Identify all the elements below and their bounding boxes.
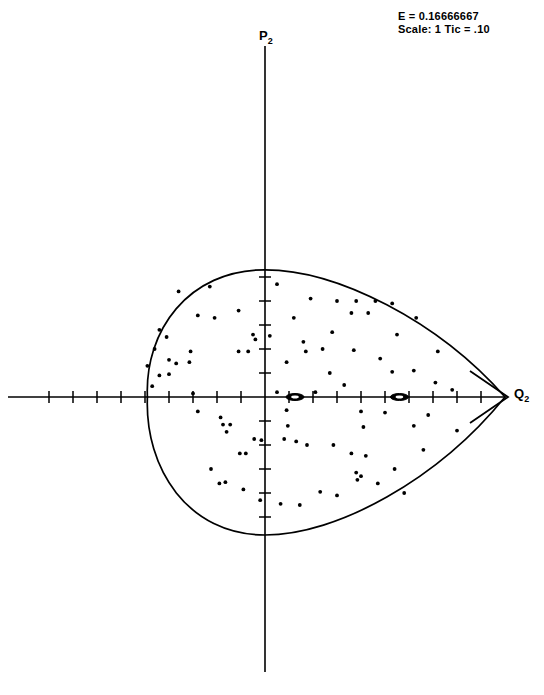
scatter-point <box>414 316 418 320</box>
scatter-point <box>302 340 306 344</box>
scatter-point <box>275 282 279 286</box>
scatter-point <box>366 311 370 315</box>
scatter-point <box>237 350 241 354</box>
scatter-point <box>376 482 380 486</box>
scatter-point <box>244 452 248 456</box>
scatter-point <box>305 443 309 447</box>
scatter-point <box>314 390 318 394</box>
scatter-point <box>328 371 332 375</box>
scatter-point <box>330 330 334 334</box>
scatter-point <box>294 440 298 444</box>
scatter-point <box>332 443 336 447</box>
scatter-point <box>165 335 169 339</box>
annotation-box: E = 0.16666667 Scale: 1 Tic = .10 <box>398 10 538 36</box>
scatter-point <box>285 360 289 364</box>
scatter-point <box>286 424 290 428</box>
scatter-point <box>158 328 162 332</box>
scatter-point <box>378 357 382 361</box>
scatter-point <box>412 424 416 428</box>
scatter-point <box>285 408 289 412</box>
scatter-point <box>158 374 162 378</box>
scatter-point <box>318 490 322 494</box>
axes-group <box>8 46 508 672</box>
scatter-point <box>304 350 308 354</box>
scatter-point <box>153 347 157 351</box>
scatter-point <box>436 350 440 354</box>
scatter-point <box>426 413 430 417</box>
scatter-point <box>364 454 368 458</box>
island-center-1-center-highlight <box>291 396 299 399</box>
scatter-point <box>209 467 213 471</box>
scatter-point <box>342 383 346 387</box>
scatter-point <box>225 430 229 434</box>
scatter-point <box>174 362 178 366</box>
scatter-point <box>354 299 358 303</box>
x-axis-label: Q2 <box>514 386 529 404</box>
scatter-point <box>221 423 225 427</box>
scatter-point <box>354 471 358 475</box>
y-axis-label-subscript: 2 <box>268 36 273 46</box>
scatter-point <box>219 416 223 420</box>
scatter-point <box>356 478 360 482</box>
scatter-point <box>362 425 366 429</box>
scatter-point <box>350 452 354 456</box>
scatter-point <box>309 297 313 301</box>
x-axis-label-text: Q <box>514 386 524 401</box>
scatter-point <box>422 448 426 452</box>
scatter-point <box>213 316 217 320</box>
scatter-point <box>455 429 459 433</box>
scatter-point <box>167 372 171 376</box>
island-center-2-center-highlight <box>396 396 404 399</box>
scatter-point <box>196 314 200 318</box>
scatter-point <box>282 437 286 441</box>
x-axis-label-subscript: 2 <box>524 394 529 404</box>
scatter-point <box>390 370 394 374</box>
energy-annotation: E = 0.16666667 <box>398 10 538 23</box>
scatter-point <box>242 488 246 492</box>
scatter-point <box>335 299 339 303</box>
scatter-point <box>402 491 406 495</box>
scatter-point <box>321 347 325 351</box>
scatter-point <box>359 474 363 478</box>
scatter-point <box>252 437 256 441</box>
scatter-point <box>335 494 339 498</box>
scatter-point <box>167 358 171 362</box>
scatter-point <box>228 423 232 427</box>
scatter-point <box>393 467 397 471</box>
scatter-point <box>412 369 416 373</box>
scatter-point <box>298 503 302 507</box>
scatter-point <box>254 338 258 342</box>
y-axis-label-text: P <box>259 28 268 43</box>
scatter-point <box>268 334 272 338</box>
scatter-point <box>196 410 200 414</box>
scale-annotation: Scale: 1 Tic = .10 <box>398 23 538 36</box>
scatter-point <box>275 390 279 394</box>
scatter-point <box>450 388 454 392</box>
separatrix-lower-branch <box>147 397 505 535</box>
scatter-point <box>350 311 354 315</box>
scatter-point <box>374 299 378 303</box>
scatter-point <box>279 502 283 506</box>
plot-canvas <box>0 0 544 695</box>
scatter-point <box>224 480 228 484</box>
scatter-point <box>218 482 222 486</box>
scatter-point <box>238 452 242 456</box>
scatter-point <box>383 411 387 415</box>
separatrix-upper-branch <box>147 270 505 397</box>
scatter-point <box>246 350 250 354</box>
scatter-point <box>260 438 264 442</box>
scatter-point <box>359 410 363 414</box>
scatter-point <box>189 350 193 354</box>
y-axis-label: P2 <box>259 28 273 46</box>
scatter-point <box>191 392 195 396</box>
separatrix-curve-group <box>147 270 505 535</box>
scatter-point <box>352 348 356 352</box>
scatter-point <box>292 316 296 320</box>
scatter-point <box>150 384 154 388</box>
scatter-point <box>237 309 241 313</box>
scatter-point <box>434 381 438 385</box>
scatter-point <box>177 290 181 294</box>
scatter-point <box>251 333 255 337</box>
phase-space-plot: E = 0.16666667 Scale: 1 Tic = .10 P2 Q2 <box>0 0 544 695</box>
scatter-point <box>258 498 262 502</box>
